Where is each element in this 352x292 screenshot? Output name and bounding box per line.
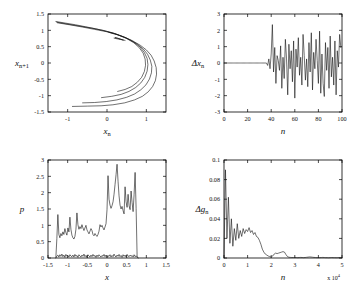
y-tick-label: 0: [217, 254, 220, 261]
x-axis-exponent-power: 4: [338, 273, 341, 278]
y-tick-label: -0.5: [34, 76, 44, 83]
y-tick-label: 0: [41, 59, 44, 66]
x-axis-exponent: x 104: [327, 273, 341, 281]
x-tick-label: 0: [105, 115, 108, 122]
x-tick-label: 3: [293, 261, 296, 268]
x-axis-label: x: [104, 272, 109, 282]
figure-canvas: -101-1.5-1-0.500.511.5xnxn+1 02040608010…: [0, 0, 352, 292]
x-tick-label: 1: [145, 115, 148, 122]
x-tick-label: 0: [222, 261, 225, 268]
x-tick-label: 1: [246, 261, 249, 268]
y-tick-label: 0.5: [36, 238, 44, 245]
y-tick-label: 0.08: [209, 176, 220, 183]
x-axis-label: xn: [102, 126, 111, 137]
y-tick-label: 0: [41, 254, 44, 261]
y-tick-label: 0.02: [209, 235, 220, 242]
y-tick-label: 0.06: [209, 195, 220, 202]
x-tick-label: 4: [317, 261, 320, 268]
x-tick-label: -1: [65, 115, 70, 122]
y-tick-label: 2: [41, 189, 44, 196]
subplot-parameter-error: 01234500.020.040.060.080.1nΔgnx 104: [176, 146, 352, 292]
y-tick-label: -3: [215, 108, 220, 115]
x-axis-label: n: [281, 272, 286, 282]
subplot-density: -1.5-1-0.500.511.500.511.522.53xp: [0, 146, 176, 292]
x-axis-label-sub: n: [107, 130, 111, 137]
data-curve-third-branch: [57, 23, 147, 98]
x-axis-label: n: [281, 126, 286, 136]
y-tick-label: 1.5: [36, 10, 44, 17]
y-tick-label: 0.1: [212, 156, 220, 163]
y-tick-label: 0: [217, 59, 220, 66]
x-tick-label: 40: [268, 115, 274, 122]
y-tick-label: 1: [41, 27, 44, 34]
y-axis-label: Δgn: [195, 204, 210, 215]
x-tick-label: 2: [270, 261, 273, 268]
y-axis-label: Δxn: [191, 58, 205, 69]
y-tick-label: 2.5: [36, 173, 44, 180]
data-curve-delta-x: [224, 25, 341, 99]
y-tick-label: 3: [41, 156, 44, 163]
subplot-sync-error: 020406080100-3-2-10123nΔxn: [176, 0, 352, 146]
x-tick-label: -0.5: [82, 261, 92, 268]
y-tick-label: -2: [215, 92, 220, 99]
y-tick-label: 0.04: [209, 215, 220, 222]
plot-frame: [48, 14, 166, 112]
y-tick-label: -1: [215, 76, 220, 83]
y-tick-label: -1: [39, 92, 44, 99]
x-tick-label: 100: [337, 115, 346, 122]
data-curve-density: [56, 164, 138, 257]
x-tick-label: 20: [245, 115, 251, 122]
x-tick-label: 1.5: [162, 261, 170, 268]
data-curve-inner-branch: [109, 32, 146, 91]
y-tick-label: 1: [41, 222, 44, 229]
y-tick-label: 2: [217, 27, 220, 34]
subplot-attractor: -101-1.5-1-0.500.511.5xnxn+1: [0, 0, 176, 146]
y-axis-label: xn+1: [14, 58, 29, 69]
y-tick-label: 1.5: [36, 205, 44, 212]
plot-frame: [224, 160, 342, 258]
y-tick-label: 1: [217, 43, 220, 50]
data-curve-delta-g: [224, 170, 342, 258]
x-tick-label: 5: [340, 261, 343, 268]
y-tick-label: 0.5: [36, 43, 44, 50]
data-curve-cusp-cluster: [114, 38, 125, 41]
y-axis-label: p: [19, 204, 25, 214]
x-tick-label: 60: [292, 115, 298, 122]
x-tick-label: 80: [315, 115, 321, 122]
y-tick-label: -1.5: [34, 108, 44, 115]
y-axis-label-sub: n+1: [19, 62, 29, 69]
x-tick-label: -1: [65, 261, 70, 268]
data-curve-outer-branch: [56, 22, 157, 107]
y-axis-label-sub: n: [201, 62, 205, 69]
x-tick-label: 0: [105, 261, 108, 268]
y-tick-label: 3: [217, 10, 220, 17]
data-curve-second-branch: [57, 22, 152, 103]
y-axis-label-sub: n: [205, 208, 209, 215]
x-tick-label: 0.5: [123, 261, 131, 268]
x-tick-label: 1: [145, 261, 148, 268]
x-tick-label: 0: [222, 115, 225, 122]
data-curve-baseline-noise: [56, 254, 138, 258]
x-tick-label: -1.5: [43, 261, 53, 268]
